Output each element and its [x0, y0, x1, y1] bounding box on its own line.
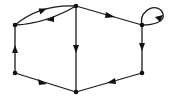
node-c	[140, 23, 145, 28]
edge-e-to-f	[15, 73, 76, 92]
node-d	[140, 71, 145, 76]
node-f	[13, 71, 18, 76]
node-b	[74, 4, 79, 9]
directed-graph	[0, 0, 178, 102]
arrow-a-to-b-icon	[39, 7, 48, 14]
arrow-c-to-d-icon	[139, 43, 145, 51]
arrow-f-to-a-icon	[12, 45, 18, 53]
arrow-d-to-e-icon	[107, 78, 116, 84]
node-a	[13, 23, 18, 28]
arrow-self-loop-icon	[155, 15, 163, 22]
arrow-b-to-e-icon	[73, 45, 79, 53]
arrow-b-to-c-icon	[105, 12, 115, 18]
node-e	[74, 90, 79, 95]
